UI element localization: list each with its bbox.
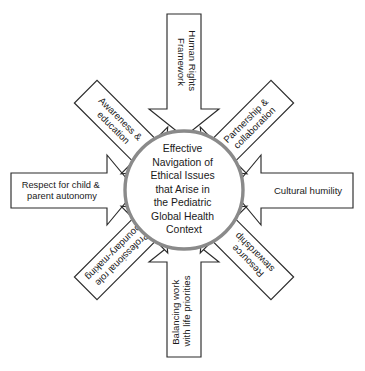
label-line: with life priorities: [181, 275, 192, 347]
arrow-shape-left: [11, 155, 136, 225]
arrow-balancing-work-life: Balancing work with life priorities: [149, 234, 219, 357]
label-line: Framework: [176, 38, 187, 86]
arrow-label-cultural-humility: Cultural humility: [274, 185, 342, 196]
hub-line: Effective: [163, 143, 203, 154]
hub-label: Effective Navigation of Ethical Issues t…: [151, 143, 218, 235]
label-line: Respect for child &: [22, 180, 101, 190]
arrow-human-rights-framework: Human Rights Framework: [149, 14, 219, 137]
radial-diagram: Human Rights Framework Balancing work wi…: [0, 0, 365, 371]
arrow-label-respect-child-parent-autonomy: Respect for child & parent autonomy: [22, 180, 103, 201]
hub-line: Context: [166, 224, 202, 235]
label-line: Balancing work: [170, 280, 181, 345]
arrow-respect-child-parent-autonomy: Respect for child & parent autonomy: [11, 155, 136, 225]
label-line: parent autonomy: [27, 191, 97, 201]
arrow-label-human-rights-framework: Human Rights Framework: [176, 30, 198, 93]
hub-line: that Arise in: [155, 184, 210, 195]
arrow-cultural-humility: Cultural humility: [232, 155, 353, 225]
label-line: Cultural humility: [274, 185, 342, 196]
hub-line: the Pediatric: [154, 197, 212, 208]
hub-line: Global Health: [151, 211, 214, 222]
label-line: Human Rights: [187, 30, 198, 91]
hub-line: Ethical Issues: [151, 170, 215, 181]
arrow-label-balancing-work-life: Balancing work with life priorities: [170, 275, 192, 347]
hub-line: Navigation of: [152, 157, 213, 168]
radial-diagram-container: Human Rights Framework Balancing work wi…: [0, 0, 365, 371]
